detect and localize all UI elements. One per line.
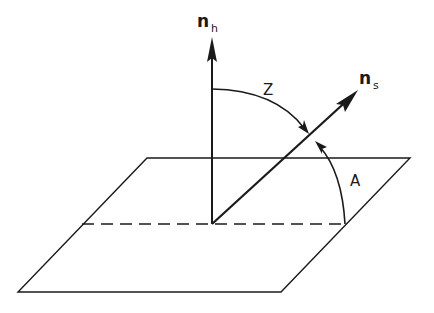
angle-a-arrowhead-icon <box>315 141 327 154</box>
label-angle-a: A <box>350 172 361 190</box>
label-angle-z: Z <box>263 81 273 99</box>
label-n-h-subscript: h <box>211 22 218 35</box>
label-n-s-subscript: s <box>373 79 379 92</box>
label-n-s-symbol: n <box>359 68 371 88</box>
angle-diagram: n h n s Z A <box>0 0 434 313</box>
label-n-h-symbol: n <box>197 11 209 31</box>
angle-z-arc <box>212 89 304 128</box>
vector-n-s-shaft <box>212 96 352 224</box>
diagram-canvas: n h n s Z A <box>0 0 434 313</box>
